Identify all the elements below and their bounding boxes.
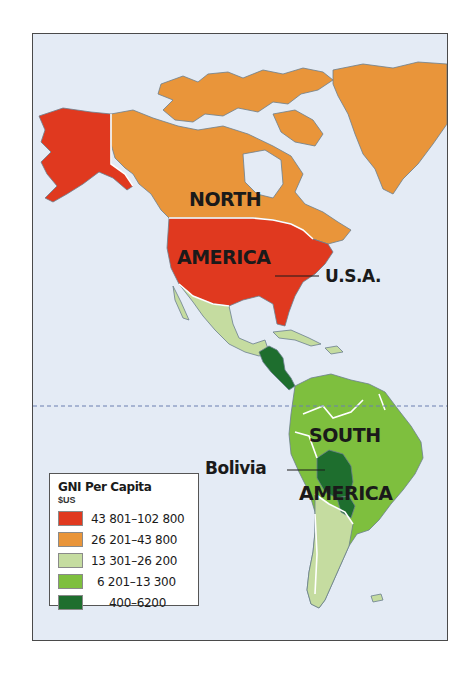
legend-swatch-upper-mid: [58, 532, 83, 547]
cuba: [273, 330, 321, 346]
legend-range: 400–6200: [91, 596, 166, 610]
south-america-label-line1: SOUTH: [309, 424, 381, 446]
north-america-label-line2: AMERICA: [177, 246, 270, 268]
legend-item: 400–6200: [58, 592, 190, 613]
legend-swatch-high: [58, 511, 83, 526]
legend-range: 13 301–26 200: [91, 554, 177, 568]
central-america: [259, 346, 295, 390]
map-frame: NORTH AMERICA U.S.A. SOUTH Bolivia AMERI…: [32, 33, 448, 641]
legend-range: 6 201–13 300: [91, 575, 176, 589]
legend-item: 43 801–102 800: [58, 508, 190, 529]
legend-swatch-mid: [58, 553, 83, 568]
legend-swatch-low: [58, 595, 83, 610]
legend-range: 26 201–43 800: [91, 533, 177, 547]
north-america-label-line1: NORTH: [189, 188, 261, 210]
legend-title: GNI Per Capita: [58, 480, 190, 494]
legend: GNI Per Capita $US 43 801–102 800 26 201…: [49, 473, 199, 606]
usa-label: U.S.A.: [325, 266, 381, 286]
south-america-label-line2: AMERICA: [299, 482, 392, 504]
legend-swatch-lower-mid: [58, 574, 83, 589]
greenland: [333, 62, 447, 194]
legend-item: 13 301–26 200: [58, 550, 190, 571]
legend-range: 43 801–102 800: [91, 512, 184, 526]
bolivia-label: Bolivia: [205, 458, 266, 478]
legend-unit: $US: [58, 495, 190, 505]
legend-item: 26 201–43 800: [58, 529, 190, 550]
legend-item: 6 201–13 300: [58, 571, 190, 592]
arctic-islands: [158, 68, 333, 122]
